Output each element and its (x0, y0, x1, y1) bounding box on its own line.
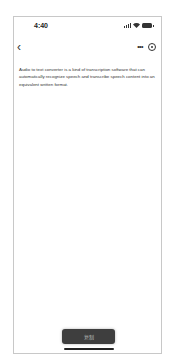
signal-icon (124, 23, 131, 28)
chevron-left-icon[interactable]: ‹ (17, 41, 21, 53)
copy-button[interactable]: 复制 (62, 329, 115, 344)
record-target-icon[interactable] (148, 43, 156, 51)
status-time: 4:40 (34, 22, 48, 29)
home-indicator (64, 348, 114, 350)
more-dots-icon[interactable]: ••• (137, 43, 143, 50)
nav-bar: ‹ ••• (14, 39, 161, 59)
battery-icon (142, 23, 152, 28)
status-icons (124, 23, 152, 28)
wifi-icon (133, 23, 140, 28)
phone-frame: 4:40 ‹ ••• Audio to text converter is a … (13, 16, 162, 354)
transcription-text: Audio to text converter is a kind of tra… (19, 66, 157, 88)
status-bar: 4:40 (14, 17, 161, 39)
